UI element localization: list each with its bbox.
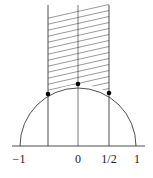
point-i — [76, 82, 81, 87]
label-one: 1 — [134, 152, 140, 167]
label-half: 1/2 — [101, 152, 116, 167]
hatching — [40, 2, 120, 104]
point-half — [107, 91, 112, 96]
point-neg-half — [46, 92, 51, 97]
label-zero: 0 — [75, 152, 81, 167]
label-neg-one: −1 — [13, 152, 26, 167]
